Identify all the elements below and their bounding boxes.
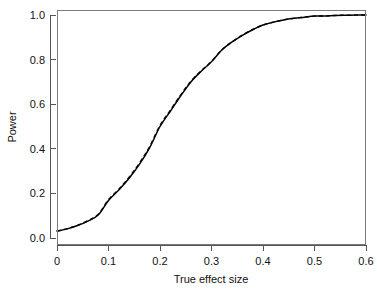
power-curve-figure: 00.10.20.30.40.50.6 0.00.20.40.60.81.0 T… [0,0,377,293]
x-tick-label: 0.5 [307,255,322,267]
x-tick-label: 0.6 [358,255,373,267]
y-tick-label: 1.0 [30,9,45,21]
x-tick-label: 0.1 [101,255,116,267]
plot-background [57,10,366,245]
x-axis-title: True effect size [174,273,249,285]
y-tick-label: 0.8 [30,54,45,66]
x-tick-label: 0.4 [255,255,270,267]
y-tick-label: 0.0 [30,232,45,244]
x-tick-label: 0.3 [204,255,219,267]
x-axis-ticks: 00.10.20.30.40.50.6 [54,245,374,267]
y-tick-label: 0.2 [30,187,45,199]
y-axis-title: Power [6,111,18,143]
power-curve-chart: 00.10.20.30.40.50.6 0.00.20.40.60.81.0 T… [0,0,377,293]
x-tick-label: 0.2 [152,255,167,267]
y-axis-ticks: 0.00.20.40.60.81.0 [30,9,56,244]
y-tick-label: 0.6 [30,98,45,110]
x-tick-label: 0 [54,255,60,267]
y-tick-label: 0.4 [30,143,45,155]
